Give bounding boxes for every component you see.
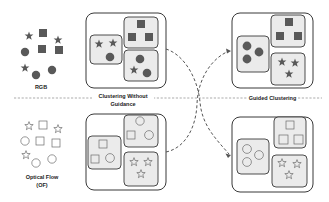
- label-rgb: RGB: [30, 84, 52, 90]
- cluster-box: [271, 15, 305, 47]
- clustering-diagram: [0, 0, 329, 202]
- label-clustering-without-guidance-2: Guidance: [104, 101, 142, 107]
- cluster-box: [271, 53, 305, 85]
- label-optical-flow: Optical Flow: [20, 174, 64, 180]
- cluster-box: [90, 35, 122, 64]
- guidance-arrows: [166, 49, 229, 154]
- cluster-box: [124, 17, 158, 48]
- panel-rgb-guided-clustering: [232, 13, 313, 88]
- arrowhead-icon: [226, 49, 232, 159]
- label-optical-flow-abbrev: (OF): [20, 182, 64, 188]
- panel-of-clustering-without-guidance: [86, 114, 166, 190]
- cluster-box: [124, 50, 158, 81]
- optical-flow-feature-scatter: [21, 121, 62, 167]
- cluster-box: [272, 155, 307, 187]
- label-clustering-without-guidance: Clustering Without: [92, 93, 154, 99]
- cluster-box: [88, 136, 121, 169]
- panel-of-guided-clustering: [232, 117, 313, 192]
- cluster-box: [237, 139, 269, 174]
- arrow-of-to-rgb-guided: [166, 51, 229, 152]
- cluster-box: [124, 152, 158, 186]
- label-guided-clustering: Guided Clustering: [247, 95, 298, 101]
- cluster-box: [124, 115, 158, 147]
- rgb-feature-scatter: [21, 29, 63, 79]
- cluster-box: [274, 117, 306, 148]
- panel-rgb-clustering-without-guidance: [86, 13, 166, 88]
- cluster-box: [237, 36, 269, 72]
